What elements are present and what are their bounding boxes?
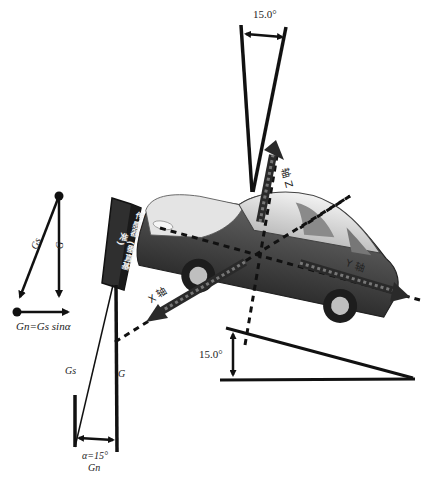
gn-formula-label: Gn=Gs sinα xyxy=(16,320,70,332)
g-vector-label: G xyxy=(54,242,65,249)
gravity-lines xyxy=(75,285,117,452)
lower-gs-label: Gs xyxy=(65,365,76,376)
right-angle-label: 15.0° xyxy=(199,348,223,360)
top-angle-wedge xyxy=(241,25,286,192)
ground-inclination-triangle xyxy=(220,328,415,380)
vector-decomposition xyxy=(13,192,69,317)
top-angle-label: 15.0° xyxy=(253,8,277,20)
alpha-angle-label: α=15° xyxy=(82,450,108,461)
gn-lower-label: Gn xyxy=(88,462,100,473)
lower-g-label: G xyxy=(118,368,125,379)
diagram-canvas xyxy=(0,0,428,480)
